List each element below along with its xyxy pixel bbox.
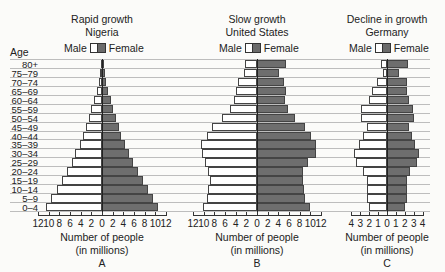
bar-female [102, 167, 138, 175]
bar-female [257, 123, 305, 131]
bar-female [387, 87, 407, 95]
x-tick-label: 12 [314, 218, 328, 229]
bar-male [354, 149, 387, 157]
legend-swatch-icon [90, 43, 106, 53]
bar-female [387, 149, 419, 157]
x-tick [204, 212, 205, 216]
bar-male [212, 123, 257, 131]
bar-female [102, 185, 148, 193]
bar-female [387, 96, 409, 104]
bar-female [387, 60, 408, 68]
x-tick [236, 212, 237, 216]
x-axis-label-units: (in millions) [42, 244, 162, 257]
bar-female [387, 158, 417, 166]
x-tick [405, 212, 406, 216]
zero-line [387, 59, 388, 215]
bar-male [245, 60, 257, 68]
x-tick [155, 212, 156, 216]
bar-male [62, 176, 102, 184]
legend-female-label: Female [109, 42, 144, 54]
bar-male [208, 167, 257, 175]
bar-female [387, 69, 399, 77]
bar-female [387, 123, 409, 131]
x-tick [289, 212, 290, 216]
x-tick [321, 212, 322, 216]
bar-male [57, 185, 102, 193]
bar-male [208, 185, 257, 193]
bar-female [257, 140, 316, 148]
legend: MaleFemale [349, 42, 429, 54]
bar-male [72, 158, 102, 166]
x-tick [268, 212, 269, 216]
bar-male [361, 105, 387, 113]
bar-female [387, 167, 410, 175]
bar-male [367, 194, 387, 202]
legend-swatch-icon [245, 43, 261, 53]
bar-female [257, 167, 303, 175]
bar-female [387, 194, 407, 202]
bar-female [387, 132, 412, 140]
panel-label: C [327, 257, 445, 270]
x-axis-label-units: (in millions) [197, 244, 317, 257]
bar-female [102, 123, 119, 131]
x-tick [423, 212, 424, 216]
x-tick-label: 4 [416, 218, 430, 229]
bar-female [257, 203, 310, 211]
x-tick [396, 212, 397, 216]
gridline [10, 77, 430, 78]
bar-female [387, 176, 407, 184]
gridline [10, 68, 430, 69]
x-tick [414, 212, 415, 216]
x-tick [369, 212, 370, 216]
bar-male [356, 158, 387, 166]
gridline [10, 86, 430, 87]
bar-male [210, 176, 257, 184]
legend-female-label: Female [394, 42, 429, 54]
bar-male [75, 149, 102, 157]
bar-female [257, 185, 304, 193]
bar-male [377, 78, 387, 86]
panel-label: B [197, 257, 317, 270]
x-tick [49, 212, 50, 216]
bar-male [359, 140, 387, 148]
x-tick [38, 212, 39, 216]
bar-male [363, 132, 387, 140]
legend-swatch-icon [375, 43, 391, 53]
bar-male [205, 158, 257, 166]
bar-male [367, 123, 387, 131]
bar-male [46, 203, 102, 211]
bar-female [257, 149, 316, 157]
bar-male [363, 167, 387, 175]
x-axis-label: Number of people [327, 231, 445, 244]
panel-country: Germany [327, 26, 445, 39]
bar-male [238, 78, 257, 86]
bar-female [257, 78, 284, 86]
x-tick [81, 212, 82, 216]
bar-female [102, 105, 113, 113]
bar-female [257, 114, 295, 122]
x-tick [387, 212, 388, 216]
bar-male [86, 123, 102, 131]
bar-male [80, 140, 102, 148]
panel-title: Rapid growth [42, 13, 162, 26]
x-tick [310, 212, 311, 216]
bar-male [89, 114, 102, 122]
bar-female [257, 158, 308, 166]
bar-female [387, 105, 413, 113]
x-tick [134, 212, 135, 216]
legend: MaleFemale [219, 42, 299, 54]
bar-female [257, 132, 311, 140]
bar-male [83, 132, 102, 140]
x-tick [225, 212, 226, 216]
x-tick [351, 212, 352, 216]
x-axis-label: Number of people [197, 231, 317, 244]
bar-male [234, 96, 257, 104]
bar-male [94, 96, 102, 104]
x-tick [59, 212, 60, 216]
bar-male [67, 167, 102, 175]
bar-male [201, 140, 257, 148]
x-axis-label-units: (in millions) [327, 244, 445, 257]
panel-title: Slow growth [197, 13, 317, 26]
panel-country: Nigeria [42, 26, 162, 39]
x-tick [166, 212, 167, 216]
